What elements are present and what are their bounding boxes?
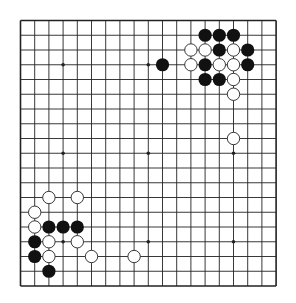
star-point [232,240,236,244]
black-stone [199,29,212,42]
black-stone [42,220,55,233]
white-stone [128,250,140,262]
star-point [61,240,65,244]
black-stone [213,43,226,56]
star-point [147,151,151,155]
black-stone [57,220,70,233]
black-stone [199,58,212,71]
black-stone [241,43,254,56]
white-stone [71,236,83,248]
white-stone [199,44,211,56]
black-stone [227,29,240,42]
black-stone [28,235,41,248]
star-point [232,151,236,155]
black-stone [42,265,55,278]
black-stone [71,220,84,233]
black-stone [28,250,41,263]
white-stone [227,132,239,144]
white-stone [185,59,197,71]
white-stone [43,191,55,203]
white-stone [227,44,239,56]
white-stone [227,59,239,71]
go-board[interactable] [0,0,296,303]
star-point [147,63,151,67]
black-stone [199,73,212,86]
white-stone [85,250,97,262]
white-stone [29,221,41,233]
white-stone [227,88,239,100]
white-stone [43,250,55,262]
star-point [61,151,65,155]
black-stone [156,58,169,71]
white-stone [227,73,239,85]
white-stone [29,206,41,218]
white-stone [213,59,225,71]
white-stone [71,191,83,203]
star-point [147,240,151,244]
black-stone [213,29,226,42]
white-stone [185,44,197,56]
black-stone [241,58,254,71]
star-point [61,63,65,67]
black-stone [213,73,226,86]
white-stone [43,236,55,248]
